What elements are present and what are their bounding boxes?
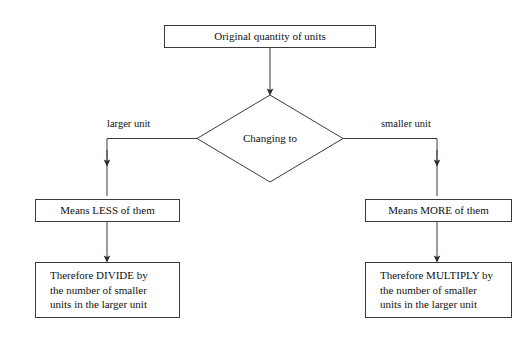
- node-original-quantity: Original quantity of units: [164, 25, 376, 48]
- flowchart-page: Original quantity of units Changing to l…: [0, 0, 530, 355]
- node-means-more-label: Means MORE of them: [388, 203, 489, 218]
- node-changing-to-label-wrap: Changing to: [197, 129, 343, 147]
- node-means-less: Means LESS of them: [35, 199, 180, 222]
- node-therefore-multiply-label: Therefore MULTIPLY by the number of smal…: [380, 268, 493, 312]
- node-original-quantity-label: Original quantity of units: [214, 29, 326, 44]
- edge-label-larger-unit-text: larger unit: [107, 118, 150, 129]
- edge-label-smaller-unit: smaller unit: [381, 118, 431, 129]
- node-therefore-divide: Therefore DIVIDE by the number of smalle…: [35, 262, 180, 318]
- edge-label-larger-unit: larger unit: [107, 118, 150, 129]
- node-therefore-divide-label: Therefore DIVIDE by the number of smalle…: [50, 268, 148, 312]
- edge-decision-to-more: [343, 139, 437, 197]
- node-therefore-multiply: Therefore MULTIPLY by the number of smal…: [365, 262, 512, 318]
- node-changing-to-label: Changing to: [243, 132, 297, 144]
- node-means-less-label: Means LESS of them: [60, 203, 154, 218]
- edge-label-smaller-unit-text: smaller unit: [381, 118, 431, 129]
- edge-decision-to-less: [107, 139, 197, 197]
- node-means-more: Means MORE of them: [365, 199, 512, 222]
